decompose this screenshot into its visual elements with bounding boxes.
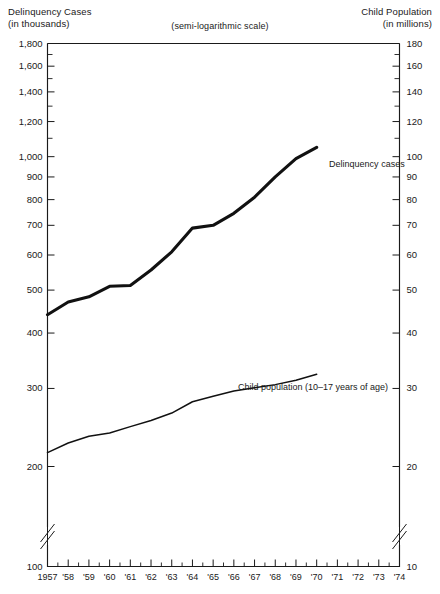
- right-tick-label-180: 180: [407, 38, 423, 49]
- left-tick-label-500: 500: [0, 284, 43, 295]
- right-tick-label-50: 50: [407, 284, 418, 295]
- left-tick-label-700: 700: [0, 219, 43, 230]
- right-tick-label-140: 140: [407, 86, 423, 97]
- delinquency-cases-label: Delinquency cases: [329, 159, 405, 169]
- left-tick-label-1600: 1,600: [0, 60, 43, 71]
- right-tick-label-40: 40: [407, 327, 418, 338]
- right-tick-label-90: 90: [407, 171, 418, 182]
- chart-canvas: [0, 0, 440, 594]
- left-tick-label-1000: 1,000: [0, 151, 43, 162]
- left-tick-label-900: 900: [0, 171, 43, 182]
- right-tick-label-100: 100: [407, 151, 423, 162]
- right-tick-label-80: 80: [407, 194, 418, 205]
- left-tick-label-300: 300: [0, 382, 43, 393]
- right-tick-label-120: 120: [407, 116, 423, 127]
- delinquency-cases-line: [48, 147, 317, 314]
- left-tick-label-600: 600: [0, 249, 43, 260]
- right-tick-label-60: 60: [407, 249, 418, 260]
- left-tick-label-1400: 1,400: [0, 86, 43, 97]
- right-tick-label-20: 20: [407, 461, 418, 472]
- left-tick-label-1200: 1,200: [0, 116, 43, 127]
- right-tick-label-30: 30: [407, 382, 418, 393]
- child-population-label: Child population (10–17 years of age): [238, 382, 388, 392]
- right-tick-label-10: 10: [407, 561, 418, 572]
- right-tick-label-70: 70: [407, 219, 418, 230]
- left-tick-label-400: 400: [0, 327, 43, 338]
- left-tick-label-200: 200: [0, 461, 43, 472]
- left-tick-label-1800: 1,800: [0, 38, 43, 49]
- x-axis-label-1974: '74: [384, 572, 416, 582]
- left-tick-label-100: 100: [0, 561, 43, 572]
- left-tick-label-800: 800: [0, 194, 43, 205]
- right-tick-label-160: 160: [407, 60, 423, 71]
